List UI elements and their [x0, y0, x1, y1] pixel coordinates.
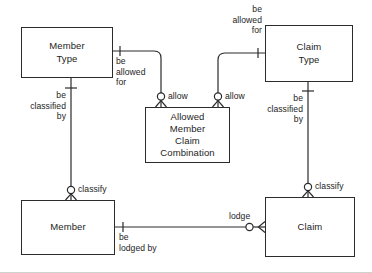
entity-member-type[interactable]: Member Type — [21, 27, 113, 78]
relationship-label-member-type-be-allowed-for: be allowed for — [116, 56, 161, 88]
relationship-label-claim-type-be-classified-by: be classified by — [247, 93, 303, 125]
er-diagram-canvas: Member Type Claim Type Allowed Member Cl… — [0, 0, 372, 273]
relationship-label-classify-member: classify — [78, 184, 124, 195]
connector-claim-type-to-claim — [302, 82, 314, 197]
entity-allowed-member-claim-combination[interactable]: Allowed Member Claim Combination — [145, 107, 230, 163]
entity-claim[interactable]: Claim — [265, 197, 355, 257]
relationship-label-member-type-be-classified-by: be classified by — [10, 90, 66, 122]
optional-circle-allow-right — [214, 93, 221, 100]
entity-claim-type-label: Claim Type — [297, 41, 322, 65]
entity-member[interactable]: Member — [21, 200, 115, 255]
relationship-label-allow-left: allow — [168, 91, 204, 102]
entity-allowed-member-claim-combination-label: Allowed Member Claim Combination — [160, 111, 214, 160]
entity-claim-type[interactable]: Claim Type — [265, 25, 353, 82]
optional-circle-classify-member — [67, 186, 74, 193]
relationship-label-member-be-lodged-by: be lodged by — [119, 232, 189, 253]
relationship-label-lodge: lodge — [229, 211, 265, 222]
entity-claim-label: Claim — [298, 221, 323, 233]
relationship-label-classify-claim: classify — [315, 181, 361, 192]
connector-member-to-claim — [115, 222, 265, 233]
connector-member-type-to-member — [65, 78, 77, 200]
relationship-label-claim-type-be-allowed-for: be allowed for — [208, 4, 262, 36]
entity-member-type-label: Member Type — [49, 40, 84, 64]
entity-member-label: Member — [50, 221, 85, 233]
optional-circle-classify-claim — [304, 183, 311, 190]
optional-circle-lodge — [246, 223, 253, 230]
optional-circle-allow-left — [157, 93, 164, 100]
